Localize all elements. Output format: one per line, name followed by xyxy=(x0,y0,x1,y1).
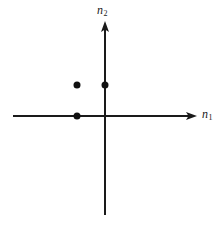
coordinate-plane-figure: n2 n1 xyxy=(0,0,222,225)
vertical-axis-label-text: n xyxy=(97,3,103,17)
vertical-axis-label: n2 xyxy=(97,4,107,16)
horizontal-axis-label-subscript: 1 xyxy=(209,113,213,122)
data-point xyxy=(74,113,81,120)
horizontal-axis-label: n1 xyxy=(202,108,212,120)
data-point xyxy=(74,82,81,89)
vertical-axis-group xyxy=(101,21,109,215)
plot-canvas xyxy=(0,0,222,225)
horizontal-axis-label-text: n xyxy=(202,107,208,121)
vertical-axis-label-subscript: 2 xyxy=(104,9,108,18)
data-points-group xyxy=(74,82,109,120)
data-point xyxy=(102,82,109,89)
